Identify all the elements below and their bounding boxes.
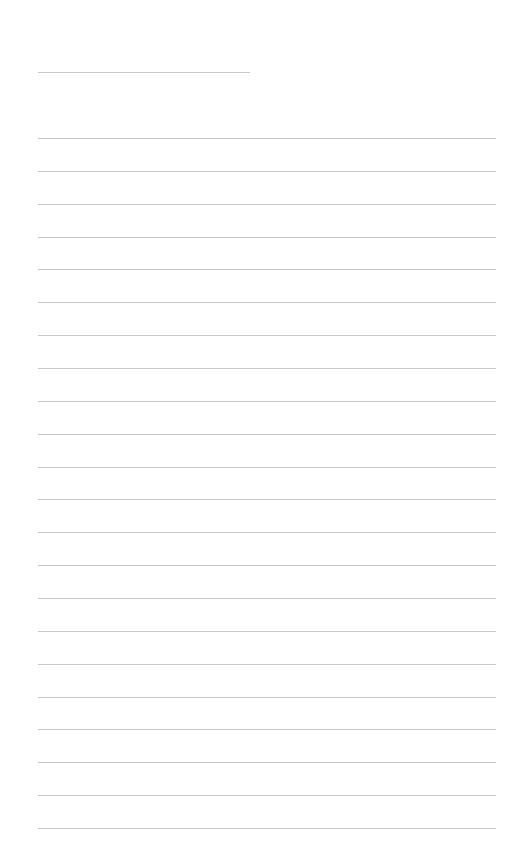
ruled-line: [38, 499, 496, 500]
ruled-line: [38, 664, 496, 665]
ruled-line: [38, 302, 496, 303]
ruled-line: [38, 729, 496, 730]
ruled-line: [38, 467, 496, 468]
ruled-line: [38, 828, 496, 829]
lined-paper-page: [0, 0, 511, 863]
ruled-line: [38, 631, 496, 632]
ruled-line: [38, 532, 496, 533]
ruled-line: [38, 598, 496, 599]
ruled-line: [38, 565, 496, 566]
ruled-line: [38, 434, 496, 435]
ruled-line: [38, 269, 496, 270]
ruled-line: [38, 138, 496, 139]
ruled-line: [38, 697, 496, 698]
title-line: [38, 72, 250, 73]
ruled-line: [38, 401, 496, 402]
ruled-line: [38, 171, 496, 172]
ruled-line: [38, 368, 496, 369]
ruled-line: [38, 795, 496, 796]
ruled-line: [38, 762, 496, 763]
ruled-line: [38, 335, 496, 336]
ruled-line: [38, 204, 496, 205]
ruled-line: [38, 237, 496, 238]
